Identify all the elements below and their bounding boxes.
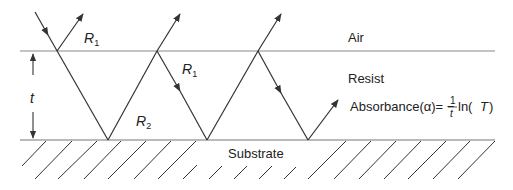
svg-text:1: 1 [450, 95, 456, 106]
absorbance-formula: Absorbance(α)= − 1 t ln( T ) [350, 95, 493, 119]
svg-text:): ) [489, 99, 493, 114]
resist-label: Resist [348, 71, 385, 86]
svg-text:Absorbance(α)= −: Absorbance(α)= − [350, 99, 454, 114]
r1-top-label: R1 [84, 30, 99, 48]
r1-mid-label: R1 [182, 61, 197, 79]
substrate-label: Substrate [228, 146, 284, 161]
svg-text:ln(: ln( [458, 99, 473, 114]
r2-label: R2 [136, 113, 151, 131]
air-label: Air [348, 30, 365, 45]
diagram-canvas: t R1 R1 R2 Air Resist Substrate Absorban… [0, 0, 513, 190]
thickness-label: t [30, 90, 35, 106]
svg-text:T: T [480, 99, 489, 114]
